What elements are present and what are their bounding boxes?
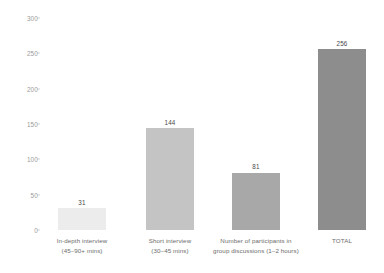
x-axis-label-line2: group discussions (1–2 hours)	[202, 246, 310, 256]
y-axis-tick-label: 250	[27, 50, 38, 57]
bar-value-label: 81	[232, 163, 280, 170]
x-axis-label-group-discussions: Number of participants in group discussi…	[202, 236, 310, 255]
y-axis-tick-label: 100	[27, 156, 38, 163]
bar-group[interactable]: 31	[58, 18, 106, 230]
x-axis-label-line2: (45–90+ mins)	[42, 246, 122, 256]
x-axis-label-line2: (30–45 mins)	[130, 246, 210, 256]
x-axis-label-short-interview: Short interview (30–45 mins)	[130, 236, 210, 255]
bar-short-interview[interactable]	[146, 128, 194, 230]
bar-chart: 0 50 100 150 200 250 300 31	[0, 0, 384, 273]
bar-group[interactable]: 256	[318, 18, 366, 230]
bar-in-depth-interview[interactable]	[58, 208, 106, 230]
x-axis-label-line1: Number of participants in	[220, 237, 291, 244]
x-axis-label-line1: Short interview	[149, 237, 191, 244]
x-axis-label-total: TOTAL	[302, 236, 382, 246]
bar-group[interactable]: 81	[232, 18, 280, 230]
x-axis-label-in-depth-interview: In-depth interview (45–90+ mins)	[42, 236, 122, 255]
bar-value-label: 31	[58, 199, 106, 206]
y-axis-tick-label: 150	[27, 121, 38, 128]
bar-total[interactable]	[318, 49, 366, 230]
y-axis-tick-label: 300	[27, 15, 38, 22]
bar-group[interactable]: 144	[146, 18, 194, 230]
y-axis-tick-label: 0	[34, 227, 38, 234]
y-axis-tick-label: 50	[31, 191, 38, 198]
bar-value-label: 256	[318, 40, 366, 47]
y-axis-tick-label: 200	[27, 85, 38, 92]
bar-value-label: 144	[146, 119, 194, 126]
x-axis-label-line1: TOTAL	[332, 237, 352, 244]
x-axis-label-line1: In-depth interview	[57, 237, 108, 244]
bar-group-discussion-participants[interactable]	[232, 173, 280, 230]
